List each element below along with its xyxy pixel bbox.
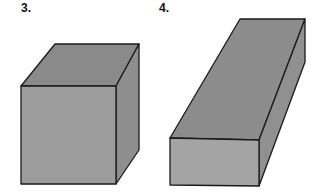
cube-figure xyxy=(21,44,139,184)
solids-diagram xyxy=(0,0,319,194)
prism-figure xyxy=(170,19,305,186)
cube-front-face xyxy=(21,86,116,184)
prism-front-face xyxy=(170,138,259,186)
